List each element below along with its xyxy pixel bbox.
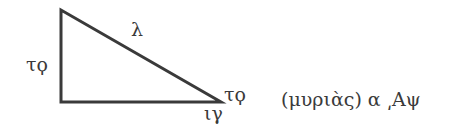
hypotenuse-label: λ bbox=[131, 20, 143, 39]
base-label: ιγ bbox=[204, 104, 223, 123]
acute-vertex-label: τϙ bbox=[224, 85, 246, 104]
triangle-figure bbox=[0, 0, 452, 133]
caption: (μυριὰς) α ͵Αψ bbox=[281, 90, 421, 109]
vertical-side-label: τϙ bbox=[26, 55, 48, 74]
